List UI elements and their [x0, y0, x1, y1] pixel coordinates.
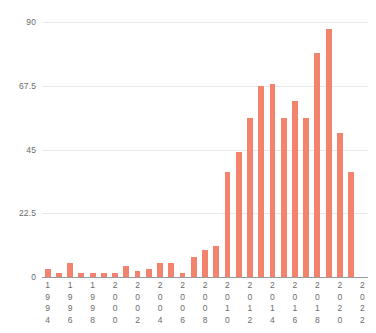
bar[interactable]: [112, 273, 118, 277]
bar-slot[interactable]: [270, 22, 276, 277]
bar-slot[interactable]: [180, 22, 186, 277]
bar-slot[interactable]: [101, 22, 107, 277]
x-tick-digit: 0: [158, 292, 163, 304]
x-tick-label: 2018: [312, 280, 323, 326]
bar-slot[interactable]: [292, 22, 298, 277]
x-tick-digit: 1: [293, 303, 298, 315]
bar-slot[interactable]: [359, 22, 365, 277]
y-tick-label: 45: [2, 145, 36, 155]
x-tick-label: 2022: [357, 280, 368, 326]
x-tick-digit: 2: [158, 280, 163, 292]
y-tick-label: 90: [2, 17, 36, 27]
x-tick-digit: 2: [360, 303, 365, 315]
bar[interactable]: [258, 86, 264, 277]
x-tick-digit: 6: [293, 315, 298, 327]
x-tick-digit: 2: [225, 280, 230, 292]
x-tick-digit: 9: [45, 292, 50, 304]
y-tick-label: 22.5: [2, 208, 36, 218]
bar-slot[interactable]: [90, 22, 96, 277]
bar-slot[interactable]: [168, 22, 174, 277]
bar-slot[interactable]: [258, 22, 264, 277]
bar-slot[interactable]: [202, 22, 208, 277]
bar[interactable]: [78, 273, 84, 277]
x-tick-digit: 0: [113, 292, 118, 304]
bar[interactable]: [202, 250, 208, 277]
bar-slot[interactable]: [78, 22, 84, 277]
bar-slot[interactable]: [348, 22, 354, 277]
x-tick-digit: 0: [113, 303, 118, 315]
bar[interactable]: [292, 101, 298, 277]
x-tick-digit: 0: [135, 303, 140, 315]
x-tick-label: 2008: [199, 280, 210, 326]
bar[interactable]: [56, 273, 62, 277]
bar[interactable]: [314, 53, 320, 277]
x-axis-line: [42, 277, 368, 278]
x-tick-digit: 1: [315, 303, 320, 315]
bar-slot[interactable]: [191, 22, 197, 277]
bar-slot[interactable]: [123, 22, 129, 277]
bar-slot[interactable]: [56, 22, 62, 277]
x-tick-digit: 0: [270, 292, 275, 304]
bar-slot[interactable]: [45, 22, 51, 277]
bar-slot[interactable]: [225, 22, 231, 277]
bar[interactable]: [303, 118, 309, 277]
x-tick-label: 2004: [154, 280, 165, 326]
x-tick-digit: 9: [68, 292, 73, 304]
bar[interactable]: [45, 269, 51, 278]
x-tick-digit: 0: [203, 303, 208, 315]
x-tick-digit: 0: [315, 292, 320, 304]
bar[interactable]: [270, 84, 276, 277]
x-tick-label: 2016: [289, 280, 300, 326]
bar[interactable]: [168, 263, 174, 277]
bar-slot[interactable]: [157, 22, 163, 277]
bar[interactable]: [101, 273, 107, 277]
x-tick-label: 1994: [42, 280, 53, 326]
x-tick-digit: 2: [338, 303, 343, 315]
x-tick-digit: 2: [338, 280, 343, 292]
bar[interactable]: [281, 118, 287, 277]
x-tick-digit: 0: [180, 292, 185, 304]
bar[interactable]: [67, 263, 73, 277]
bar-slot[interactable]: [236, 22, 242, 277]
bar-slot[interactable]: [135, 22, 141, 277]
x-tick-digit: 1: [68, 280, 73, 292]
bar[interactable]: [191, 257, 197, 277]
bar[interactable]: [135, 271, 141, 277]
bar[interactable]: [326, 29, 332, 277]
x-tick-digit: 2: [135, 315, 140, 327]
x-tick-digit: 2: [315, 280, 320, 292]
x-tick-digit: 2: [113, 280, 118, 292]
bar[interactable]: [213, 246, 219, 277]
bar-slot[interactable]: [146, 22, 152, 277]
x-tick-label: 2012: [244, 280, 255, 326]
bar-slot[interactable]: [112, 22, 118, 277]
x-tick-digit: 6: [180, 315, 185, 327]
bar[interactable]: [247, 118, 253, 277]
bar-slot[interactable]: [281, 22, 287, 277]
bar[interactable]: [348, 172, 354, 277]
bar[interactable]: [123, 266, 129, 277]
x-tick-digit: 0: [158, 303, 163, 315]
bar-slot[interactable]: [337, 22, 343, 277]
bar-slot[interactable]: [314, 22, 320, 277]
x-tick-digit: 2: [180, 280, 185, 292]
bar[interactable]: [337, 133, 343, 278]
bar-slot[interactable]: [213, 22, 219, 277]
bar[interactable]: [236, 152, 242, 277]
x-tick-digit: 0: [293, 292, 298, 304]
bar[interactable]: [146, 269, 152, 278]
bar-slot[interactable]: [303, 22, 309, 277]
bar[interactable]: [225, 172, 231, 277]
x-tick-digit: 0: [225, 292, 230, 304]
bar[interactable]: [157, 263, 163, 277]
bar[interactable]: [90, 273, 96, 277]
bar-slot[interactable]: [67, 22, 73, 277]
x-tick-digit: 0: [113, 315, 118, 327]
x-tick-digit: 2: [248, 280, 253, 292]
bar[interactable]: [180, 273, 186, 277]
x-tick-digit: 8: [90, 315, 95, 327]
x-tick-digit: 8: [315, 315, 320, 327]
bar-slot[interactable]: [326, 22, 332, 277]
x-tick-digit: 9: [45, 303, 50, 315]
bar-slot[interactable]: [247, 22, 253, 277]
